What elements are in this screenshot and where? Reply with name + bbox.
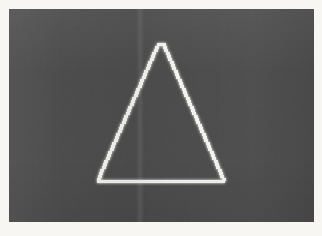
bezel-top-edge	[0, 0, 322, 9]
triangle-figure	[9, 9, 314, 222]
bezel-left-edge	[0, 0, 9, 236]
triangle-base-edge	[97, 180, 225, 183]
triangle-left-edge	[97, 43, 162, 181]
display-screen	[9, 9, 314, 222]
bezel-bottom-edge	[0, 222, 322, 236]
bezel-right-edge	[314, 0, 322, 236]
triangle-right-edge	[161, 43, 226, 181]
screenshot-canvas	[0, 0, 322, 236]
